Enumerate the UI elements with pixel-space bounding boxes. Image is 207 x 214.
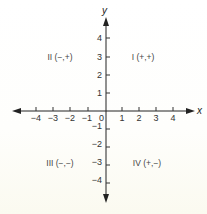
x-axis-right-arrow-icon — [186, 108, 195, 114]
x-axis-label: x — [196, 105, 203, 116]
y-axis-up-arrow-icon — [103, 17, 109, 26]
quadrant-i-label: I (+,+) — [132, 52, 155, 62]
y-axis-tick-labels: 4 3 2 1 −1 −2 −3 −4 — [92, 33, 102, 185]
y-tick-label: 4 — [97, 33, 102, 43]
y-tick-label: −4 — [92, 175, 102, 185]
coordinate-plane-svg: x y 0 −4 −3 −2 −1 1 2 3 4 — [0, 0, 207, 214]
coordinate-plane-diagram: x y 0 −4 −3 −2 −1 1 2 3 4 — [0, 0, 207, 214]
y-axis-down-arrow-icon — [103, 194, 109, 203]
y-tick-label: 1 — [97, 88, 102, 98]
y-tick-label: 3 — [97, 52, 102, 62]
x-axis-left-arrow-icon — [12, 108, 21, 114]
y-tick-label: −2 — [92, 139, 102, 149]
x-tick-label: 1 — [119, 113, 124, 123]
y-tick-label: 2 — [97, 70, 102, 80]
x-tick-label: −1 — [82, 113, 92, 123]
quadrant-iv-label: IV (+,−) — [133, 158, 162, 168]
quadrant-ii-label: II (−,+) — [47, 52, 72, 62]
y-axis-label: y — [101, 5, 108, 16]
y-tick-label: −3 — [92, 157, 102, 167]
y-tick-label: −1 — [92, 121, 102, 131]
x-axis-ticks — [36, 107, 173, 111]
x-tick-label: 3 — [153, 113, 158, 123]
x-tick-label: 4 — [170, 113, 175, 123]
x-tick-label: −4 — [31, 113, 41, 123]
x-tick-label: 2 — [136, 113, 141, 123]
quadrant-iii-label: III (−,−) — [46, 158, 74, 168]
x-tick-label: −3 — [48, 113, 58, 123]
x-tick-label: −2 — [65, 113, 75, 123]
